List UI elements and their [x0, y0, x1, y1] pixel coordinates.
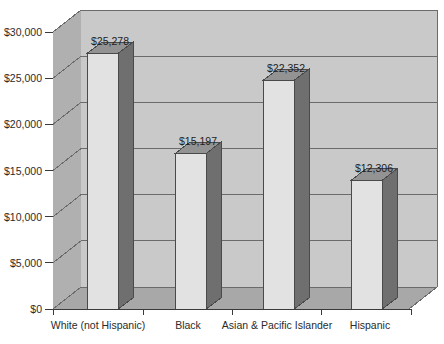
bar-chart: $30,000 $25,000 $20,000 $15,000 $10,000 … — [0, 0, 444, 344]
x-axis-tick-label-asian-pacific-islander: Asian & Pacific Islander — [214, 320, 340, 331]
bar-front-face — [351, 180, 382, 309]
bar-front-face — [175, 154, 206, 309]
x-axis-ticks — [53, 310, 411, 316]
bar-black[interactable] — [175, 142, 221, 309]
bar-side-face — [294, 69, 309, 309]
y-axis-tick-label: $5,000 — [0, 258, 42, 269]
y-axis-tick-label: $10,000 — [0, 212, 42, 223]
x-axis-tick-label-white-not-hispanic: White (not Hispanic) — [38, 320, 158, 331]
bar-side-face — [118, 42, 133, 309]
bar-hispanic[interactable] — [351, 169, 397, 309]
y-axis-tick-label: $30,000 — [0, 27, 42, 38]
bar-white-not-hispanic[interactable] — [87, 42, 133, 309]
y-axis-tick-label: $25,000 — [0, 73, 42, 84]
bar-asian-pacific-islander[interactable] — [263, 69, 309, 309]
data-label-black: $15,197 — [168, 136, 228, 147]
y-axis-tick-label: $0 — [0, 304, 42, 315]
bar-front-face — [263, 81, 294, 310]
data-label-asian-pacific-islander: $22,352 — [256, 63, 316, 74]
y-axis-tick-label: $15,000 — [0, 166, 42, 177]
bar-front-face — [87, 54, 118, 310]
data-label-hispanic: $12,306 — [344, 163, 404, 174]
y-axis-ticks — [45, 32, 53, 309]
data-label-white-not-hispanic: $25,278 — [80, 36, 140, 47]
y-axis-tick-label: $20,000 — [0, 119, 42, 130]
bar-side-face — [206, 142, 221, 309]
x-axis-tick-label-hispanic: Hispanic — [330, 320, 410, 331]
bar-side-face — [382, 169, 397, 309]
